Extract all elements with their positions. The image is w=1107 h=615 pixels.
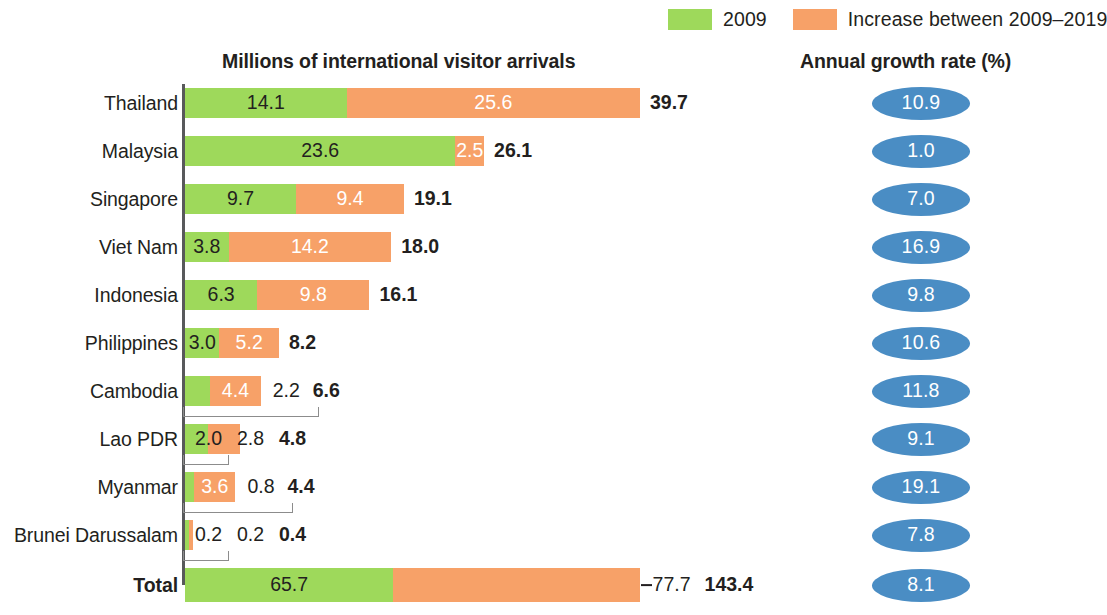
chart-row: Philippines3.05.28.210.6 xyxy=(0,328,1070,358)
value-label-total: 8.2 xyxy=(289,333,316,353)
value-label-2009: 3.8 xyxy=(193,237,220,257)
chart-row: Indonesia6.39.816.19.8 xyxy=(0,280,1070,310)
category-label-lao-pdr: Lao PDR xyxy=(0,428,178,451)
value-label-2009: 0.8 xyxy=(247,477,274,497)
growth-rate-badge: 7.8 xyxy=(872,519,970,552)
bar-segment-increase xyxy=(189,520,193,550)
leader-bracket xyxy=(183,455,229,465)
category-label-indonesia: Indonesia xyxy=(0,284,178,307)
legend-label-increase: Increase between 2009–2019 xyxy=(848,8,1107,31)
value-label-2009: 23.6 xyxy=(301,141,339,161)
category-label-total: Total xyxy=(0,574,178,597)
category-label-myanmar: Myanmar xyxy=(0,476,178,499)
value-label-total: 39.7 xyxy=(650,93,688,113)
growth-rate-badge: 9.1 xyxy=(872,423,970,456)
leader-bracket xyxy=(183,503,293,513)
legend-swatch-increase xyxy=(793,9,837,30)
growth-rate-badge: 16.9 xyxy=(872,231,970,264)
stacked-bar xyxy=(185,520,193,550)
growth-rate-badge: 8.1 xyxy=(872,569,970,602)
chart-row: Myanmar3.60.84.419.1 xyxy=(0,472,1070,502)
chart-row: Brunei Darussalam0.20.20.47.8 xyxy=(0,520,1070,550)
value-label-total: 16.1 xyxy=(380,285,418,305)
bar-segment-2009 xyxy=(185,376,210,406)
stacked-bar xyxy=(185,568,640,602)
growth-rate-badge: 7.0 xyxy=(872,183,970,216)
chart-row: Cambodia4.42.26.611.8 xyxy=(0,376,1070,406)
chart-row: Thailand14.125.639.710.9 xyxy=(0,88,1070,118)
category-label-brunei-darussalam: Brunei Darussalam xyxy=(0,524,178,547)
growth-rate-badge: 9.8 xyxy=(872,279,970,312)
value-label-2009: 0.2 xyxy=(195,525,222,545)
value-label-2009: 9.7 xyxy=(227,189,254,209)
value-label-increase: 25.6 xyxy=(474,93,512,113)
value-label-increase: 2.8 xyxy=(237,429,264,449)
stacked-bar xyxy=(185,184,404,214)
bar-segment-increase xyxy=(393,568,639,602)
category-label-viet-nam: Viet Nam xyxy=(0,236,178,259)
value-label-increase: 5.2 xyxy=(236,333,263,353)
category-label-thailand: Thailand xyxy=(0,92,178,115)
column-header-growth: Annual growth rate (%) xyxy=(800,50,1011,73)
chart-row: Total65.777.7143.48.1 xyxy=(0,568,1070,602)
chart-legend: 2009 Increase between 2009–2019 xyxy=(668,6,1107,32)
value-label-increase: 4.4 xyxy=(222,381,249,401)
bar-segment-2009 xyxy=(185,472,194,502)
leader-bracket xyxy=(183,551,229,561)
chart-row: Malaysia23.62.526.11.0 xyxy=(0,136,1070,166)
value-label-increase: 14.2 xyxy=(291,237,329,257)
legend-swatch-2009 xyxy=(668,9,712,30)
value-label-increase: 9.4 xyxy=(336,189,363,209)
growth-rate-badge: 10.6 xyxy=(872,327,970,360)
growth-rate-badge: 19.1 xyxy=(872,471,970,504)
value-label-total: 18.0 xyxy=(401,237,439,257)
value-label-2009: 3.0 xyxy=(189,333,216,353)
value-label-2009: 14.1 xyxy=(247,93,285,113)
value-label-2009: 65.7 xyxy=(270,575,308,595)
leader-dash xyxy=(641,584,652,586)
chart-row: Singapore9.79.419.17.0 xyxy=(0,184,1070,214)
chart-row: Viet Nam3.814.218.016.9 xyxy=(0,232,1070,262)
category-label-philippines: Philippines xyxy=(0,332,178,355)
leader-bracket xyxy=(183,407,319,417)
value-label-increase: 0.2 xyxy=(237,525,264,545)
column-header-arrivals: Millions of international visitor arriva… xyxy=(222,50,575,73)
growth-rate-badge: 1.0 xyxy=(872,135,970,168)
value-label-increase: 3.6 xyxy=(201,477,228,497)
growth-rate-badge: 11.8 xyxy=(872,375,970,408)
growth-rate-badge: 10.9 xyxy=(872,87,970,120)
value-label-total: 6.6 xyxy=(313,381,340,401)
value-label-total: 143.4 xyxy=(705,575,754,595)
value-label-increase: 77.7 xyxy=(653,575,691,595)
value-label-total: 4.8 xyxy=(279,429,306,449)
value-label-2009: 6.3 xyxy=(208,285,235,305)
value-label-total: 0.4 xyxy=(279,525,306,545)
category-label-singapore: Singapore xyxy=(0,188,178,211)
chart-row: Lao PDR2.02.84.89.1 xyxy=(0,424,1070,454)
value-label-increase: 9.8 xyxy=(300,285,327,305)
value-label-2009: 2.2 xyxy=(273,381,300,401)
value-label-total: 4.4 xyxy=(287,477,314,497)
value-label-increase: 2.5 xyxy=(456,141,483,161)
category-label-cambodia: Cambodia xyxy=(0,380,178,403)
legend-label-2009: 2009 xyxy=(723,8,767,31)
value-label-total: 19.1 xyxy=(414,189,452,209)
value-label-total: 26.1 xyxy=(494,141,532,161)
category-label-malaysia: Malaysia xyxy=(0,140,178,163)
value-label-2009: 2.0 xyxy=(195,429,222,449)
